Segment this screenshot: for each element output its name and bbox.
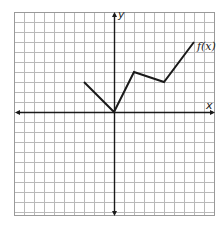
function-label: f(x) (196, 40, 216, 53)
x-axis-left-arrow-icon (15, 110, 20, 115)
y-axis-label: y (117, 8, 125, 21)
coordinate-plane: x y f(x) (0, 0, 223, 231)
x-axis-label: x (205, 99, 213, 112)
